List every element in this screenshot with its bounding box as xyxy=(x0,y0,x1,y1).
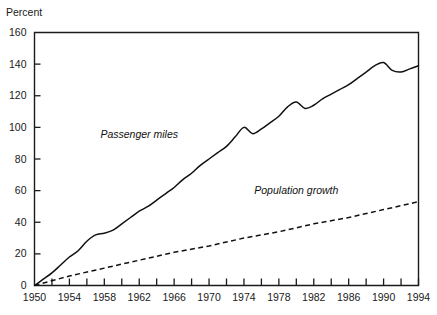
y-tick-label-0: 0 xyxy=(21,279,27,291)
data-series-group xyxy=(35,62,419,285)
x-tick-label-1958: 1958 xyxy=(93,291,117,303)
y-tick-label-60: 60 xyxy=(15,184,27,196)
x-tick-label-1994: 1994 xyxy=(407,291,431,303)
series-line-passenger-miles xyxy=(35,62,419,285)
line-chart: Percent 020406080100120140160 1950195419… xyxy=(0,0,437,315)
x-tick-label-1974: 1974 xyxy=(232,291,256,303)
annotation-population-growth: Population growth xyxy=(254,184,338,196)
annotation-passenger-miles: Passenger miles xyxy=(100,128,178,140)
x-tick-label-1978: 1978 xyxy=(267,291,291,303)
y-tick-label-100: 100 xyxy=(9,121,27,133)
x-tick-label-1962: 1962 xyxy=(128,291,152,303)
y-tick-label-120: 120 xyxy=(9,89,27,101)
y-axis-title: Percent xyxy=(6,6,42,18)
series-line-population-growth xyxy=(35,202,419,286)
chart-figure: Percent 020406080100120140160 1950195419… xyxy=(0,0,437,315)
y-tick-label-160: 160 xyxy=(9,26,27,38)
y-axis-ticks xyxy=(35,64,41,254)
x-axis-ticks xyxy=(52,279,419,286)
y-tick-label-80: 80 xyxy=(15,153,27,165)
y-axis-tick-labels: 020406080100120140160 xyxy=(9,26,27,291)
plot-frame xyxy=(35,33,419,286)
x-tick-label-1970: 1970 xyxy=(197,291,221,303)
x-tick-label-1982: 1982 xyxy=(302,291,326,303)
series-annotations: Passenger milesPopulation growth xyxy=(100,128,338,195)
y-tick-label-140: 140 xyxy=(9,58,27,70)
x-axis-tick-labels: 1950195419581962196619701974197819821986… xyxy=(23,291,431,303)
y-tick-label-40: 40 xyxy=(15,216,27,228)
x-tick-label-1986: 1986 xyxy=(337,291,361,303)
x-tick-label-1966: 1966 xyxy=(162,291,186,303)
y-tick-label-20: 20 xyxy=(15,247,27,259)
x-tick-label-1954: 1954 xyxy=(58,291,82,303)
x-tick-label-1950: 1950 xyxy=(23,291,47,303)
x-tick-label-1990: 1990 xyxy=(372,291,396,303)
